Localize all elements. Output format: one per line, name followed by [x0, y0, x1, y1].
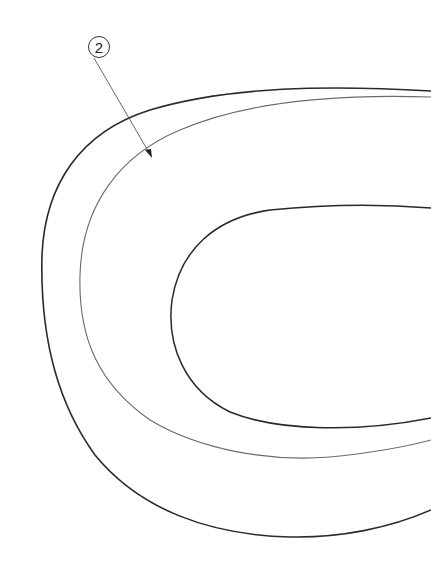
outer-contour — [42, 88, 431, 537]
diagram-canvas — [0, 0, 431, 579]
callout-label-2: 2 — [88, 36, 110, 58]
arrowhead-icon — [145, 149, 152, 158]
middle-contour — [80, 96, 431, 458]
inner-contour — [171, 206, 431, 428]
callout-leader-line — [94, 58, 151, 156]
